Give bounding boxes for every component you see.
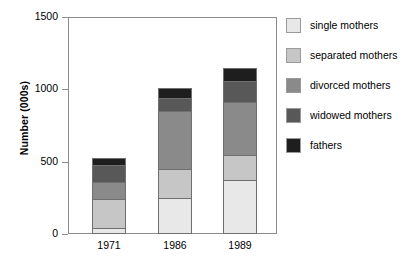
- y-tick-500: 500: [0, 162, 68, 163]
- legend-item-separated-mothers[interactable]: separated mothers: [286, 47, 398, 63]
- bar-segment: [158, 98, 192, 111]
- bar-segment: [223, 81, 257, 101]
- y-tick-label: 1500: [35, 10, 58, 22]
- bar-stack: [223, 68, 257, 234]
- bar-segment: [92, 182, 126, 199]
- bar-group-1971: [92, 17, 126, 234]
- y-tick-label: 0: [52, 227, 58, 239]
- y-tick-label: 1000: [35, 82, 58, 94]
- legend-item-fathers[interactable]: fathers: [286, 137, 342, 153]
- x-tick-label-1971: 1971: [79, 239, 139, 251]
- bar-segment: [92, 228, 126, 235]
- stacked-bar-chart: Number (000s) 050010001500 197119861989 …: [0, 0, 408, 268]
- bar-segment: [92, 165, 126, 182]
- y-tick-line: [62, 234, 68, 235]
- x-tick-label-1986: 1986: [145, 239, 205, 251]
- bar-stack: [158, 88, 192, 234]
- y-tick-1000: 1000: [0, 89, 68, 90]
- legend-label: fathers: [310, 139, 342, 151]
- legend-item-widowed-mothers[interactable]: widowed mothers: [286, 107, 392, 123]
- bar-segment: [223, 180, 257, 234]
- legend-label: widowed mothers: [310, 109, 392, 121]
- legend-swatch-icon: [286, 18, 301, 33]
- bar-segment: [158, 111, 192, 169]
- legend-label: divorced mothers: [310, 79, 391, 91]
- bars-layer: [68, 17, 277, 234]
- bar-segment: [223, 155, 257, 180]
- legend-swatch-icon: [286, 48, 301, 63]
- bar-group-1986: [158, 17, 192, 234]
- legend-swatch-icon: [286, 108, 301, 123]
- bar-segment: [92, 199, 126, 228]
- y-axis-title: Number (000s): [18, 48, 30, 188]
- x-tick-label-1989: 1989: [210, 239, 270, 251]
- y-tick-0: 0: [0, 234, 68, 235]
- legend-item-divorced-mothers[interactable]: divorced mothers: [286, 77, 391, 93]
- legend-label: separated mothers: [310, 49, 398, 61]
- legend-label: single mothers: [310, 19, 378, 31]
- y-tick-label: 500: [40, 155, 58, 167]
- bar-segment: [223, 102, 257, 156]
- legend-swatch-icon: [286, 138, 301, 153]
- bar-stack: [92, 158, 126, 234]
- legend-swatch-icon: [286, 78, 301, 93]
- bar-segment: [158, 88, 192, 98]
- bar-segment: [158, 198, 192, 234]
- bar-segment: [158, 169, 192, 198]
- bar-segment: [223, 68, 257, 81]
- y-tick-1500: 1500: [0, 17, 68, 18]
- legend-item-single-mothers[interactable]: single mothers: [286, 17, 378, 33]
- bar-group-1989: [223, 17, 257, 234]
